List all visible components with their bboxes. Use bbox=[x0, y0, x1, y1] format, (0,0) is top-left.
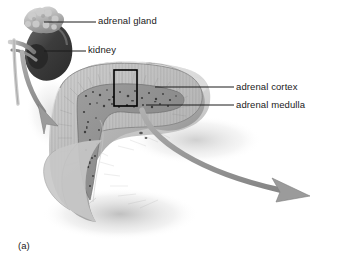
label-adrenal-cortex: adrenal cortex bbox=[236, 82, 298, 92]
label-adrenal-medulla: adrenal medulla bbox=[236, 100, 305, 110]
anatomy-illustration bbox=[0, 0, 337, 273]
label-kidney: kidney bbox=[88, 45, 116, 55]
figure-panel: adrenal gland kidney adrenal cortex adre… bbox=[0, 0, 337, 273]
label-adrenal-gland: adrenal gland bbox=[98, 16, 157, 26]
adrenal-gland-cap bbox=[24, 7, 64, 34]
panel-letter: (a) bbox=[18, 240, 30, 251]
